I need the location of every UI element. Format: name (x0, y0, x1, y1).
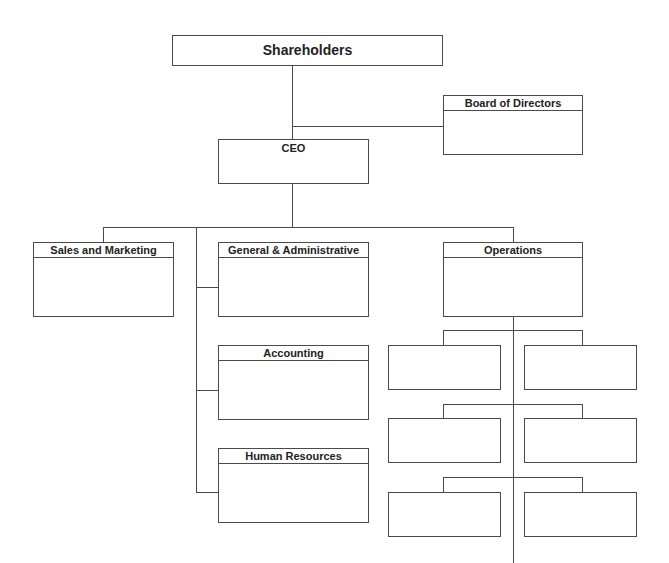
node-ops-unit-1 (388, 345, 501, 390)
connector-to-operations (513, 227, 514, 242)
node-sales-label: Sales and Marketing (34, 243, 173, 258)
connector-to-accounting (196, 390, 218, 391)
connector-ops-row-3 (443, 477, 583, 478)
node-sales-and-marketing: Sales and Marketing (33, 242, 174, 317)
node-accounting: Accounting (218, 345, 369, 420)
connector-ops-row-3-left (443, 477, 444, 492)
connector-shareholders-ceo (292, 65, 293, 140)
connector-operations-spine (513, 316, 514, 563)
node-ceo-label: CEO (219, 140, 368, 154)
node-ceo: CEO (218, 139, 369, 184)
node-board-of-directors: Board of Directors (443, 95, 583, 155)
node-ops-unit-3 (388, 418, 501, 463)
node-ops-unit-5 (388, 492, 501, 537)
connector-ops-row-2-right (582, 404, 583, 418)
connector-ops-row-1-right (582, 330, 583, 345)
node-operations-label: Operations (444, 243, 582, 258)
node-shareholders: Shareholders (172, 35, 443, 66)
connector-ops-row-3-right (582, 477, 583, 492)
node-board-label: Board of Directors (444, 96, 582, 111)
connector-ops-row-2-left (443, 404, 444, 418)
node-ga-label: General & Administrative (219, 243, 368, 258)
connector-ceo-branch (103, 227, 514, 228)
connector-to-board (292, 126, 443, 127)
node-shareholders-label: Shareholders (173, 36, 442, 65)
connector-ops-row-2 (443, 404, 583, 405)
node-human-resources: Human Resources (218, 448, 369, 523)
connector-to-hr (196, 492, 218, 493)
node-operations: Operations (443, 242, 583, 317)
connector-ceo-down (292, 183, 293, 227)
connector-ops-row-1 (443, 330, 583, 331)
node-ops-unit-4 (524, 418, 637, 463)
node-ops-unit-6 (524, 492, 637, 537)
node-general-administrative: General & Administrative (218, 242, 369, 317)
connector-to-sales (103, 227, 104, 242)
connector-ops-row-1-left (443, 330, 444, 345)
connector-to-ga (196, 287, 218, 288)
node-accounting-label: Accounting (219, 346, 368, 361)
node-hr-label: Human Resources (219, 449, 368, 464)
node-ops-unit-2 (524, 345, 637, 390)
connector-admin-spine (196, 227, 197, 493)
